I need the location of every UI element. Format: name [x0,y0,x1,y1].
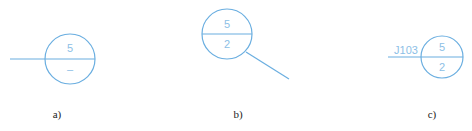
lower-value: 2 [439,61,445,73]
caption: b) [233,108,243,121]
upper-value: 5 [67,42,73,54]
leader-line [246,52,289,79]
figure-c: J103 5 2 c) [388,36,463,121]
figure-a: 5 – a) [10,34,95,121]
lower-value: – [67,63,74,75]
caption: c) [428,108,437,121]
figure-b: 5 2 b) [202,9,289,121]
caption: a) [53,108,62,121]
upper-value: 5 [224,18,230,30]
reference-symbols-diagram: 5 – a) 5 2 b) J103 5 2 c) [0,0,472,131]
lower-value: 2 [224,38,230,50]
designation-label: J103 [394,44,418,56]
upper-value: 5 [439,41,445,53]
